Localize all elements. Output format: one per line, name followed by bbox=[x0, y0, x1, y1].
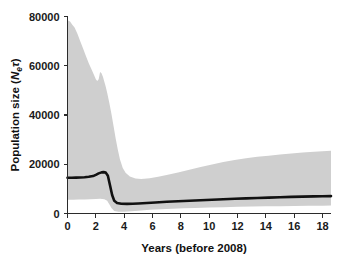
y-axis-title-suffix: ) bbox=[9, 58, 21, 62]
y-tick-label: 80000 bbox=[29, 11, 60, 23]
x-tick-label: 14 bbox=[260, 220, 273, 232]
x-tick-label: 10 bbox=[203, 220, 215, 232]
x-tick-label: 8 bbox=[178, 220, 184, 232]
y-tick-label: 60000 bbox=[29, 60, 60, 72]
y-axis-title-prefix: Population size ( bbox=[9, 80, 21, 172]
y-tick-label: 20000 bbox=[29, 158, 60, 170]
x-tick-label: 2 bbox=[93, 220, 99, 232]
population-size-chart-figure: 020000400006000080000 024681012141618 Ye… bbox=[0, 0, 338, 259]
chart-canvas: 020000400006000080000 024681012141618 Ye… bbox=[0, 0, 338, 259]
y-tick-label: 0 bbox=[53, 208, 59, 220]
x-tick-label: 0 bbox=[64, 220, 70, 232]
x-tick-label: 12 bbox=[231, 220, 243, 232]
y-tick-label: 40000 bbox=[29, 109, 60, 121]
x-tick-label: 18 bbox=[316, 220, 328, 232]
x-axis-title: Years (before 2008) bbox=[141, 242, 247, 254]
x-tick-label: 16 bbox=[288, 220, 300, 232]
x-tick-label: 4 bbox=[121, 220, 128, 232]
x-tick-label: 6 bbox=[149, 220, 155, 232]
